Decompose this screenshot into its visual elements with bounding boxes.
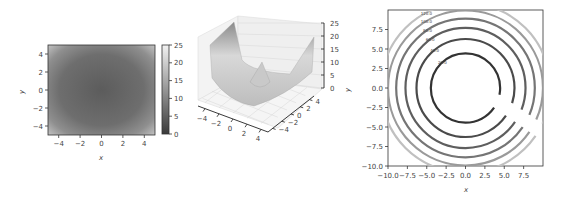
svg-text:0.0: 0.0 (372, 85, 383, 93)
colorbar-ticks: 0510152025 (169, 42, 183, 139)
svg-text:−2: −2 (33, 105, 43, 113)
svg-text:−4: −4 (197, 115, 208, 123)
svg-text:120.0: 120.0 (421, 11, 433, 16)
svg-text:0: 0 (297, 112, 301, 120)
svg-text:0: 0 (174, 131, 178, 139)
svg-text:15: 15 (330, 46, 339, 54)
svg-text:−4: −4 (54, 140, 65, 148)
svg-text:0.0: 0.0 (460, 172, 471, 180)
svg-text:0: 0 (228, 125, 232, 133)
svg-text:−4: −4 (279, 126, 290, 134)
svg-text:−7.5: −7.5 (399, 172, 416, 180)
svg-text:5: 5 (174, 113, 178, 121)
svg-text:−2: −2 (288, 119, 298, 127)
svg-text:40.0: 40.0 (430, 48, 439, 53)
svg-text:2: 2 (121, 140, 125, 148)
contour-panel: 20.040.060.080.0100.0120.0 −10.0−7.5−5.0… (340, 0, 564, 202)
svg-text:2.5: 2.5 (372, 65, 383, 73)
svg-text:10: 10 (330, 59, 339, 67)
heatmap-x-ticks: −4−2024 (54, 135, 148, 148)
svg-text:0: 0 (39, 87, 43, 95)
heatmap-x-label: x (98, 154, 104, 162)
svg-text:−4: −4 (33, 123, 44, 131)
heatmap-image (48, 45, 155, 135)
svg-text:−2.5: −2.5 (438, 172, 455, 180)
svg-text:−2: −2 (211, 120, 221, 128)
svg-text:80.0: 80.0 (423, 28, 432, 33)
svg-text:25: 25 (330, 20, 339, 28)
surface3d-panel: −4−2024−4−20240510152025 (190, 0, 350, 202)
contour-x-ticks: −10.0−7.5−5.0−2.50.02.55.07.5 (377, 166, 529, 180)
contour-y-ticks: −10.0−7.5−5.0−2.50.02.55.07.5 (362, 26, 388, 171)
svg-text:4: 4 (256, 135, 261, 143)
svg-text:20.0: 20.0 (438, 60, 447, 65)
svg-text:4: 4 (142, 140, 147, 148)
svg-text:−10.0: −10.0 (377, 172, 398, 180)
colorbar (162, 45, 169, 134)
heatmap-panel: −4−2024 −4−2024 x y 0510152025 (0, 0, 190, 202)
svg-text:2: 2 (306, 105, 310, 113)
svg-text:5.0: 5.0 (372, 46, 383, 54)
svg-text:20: 20 (330, 33, 339, 41)
svg-text:7.5: 7.5 (518, 172, 529, 180)
heatmap-y-label: y (18, 89, 26, 95)
contour-y-label: y (344, 87, 352, 93)
svg-text:7.5: 7.5 (372, 26, 383, 34)
svg-text:100.0: 100.0 (421, 19, 433, 24)
svg-text:−2: −2 (75, 140, 85, 148)
svg-text:2: 2 (39, 69, 43, 77)
svg-text:25: 25 (174, 42, 183, 50)
svg-text:−10.0: −10.0 (362, 163, 383, 171)
svg-text:5.0: 5.0 (499, 172, 510, 180)
svg-text:10: 10 (174, 95, 183, 103)
svg-text:−5.0: −5.0 (418, 172, 435, 180)
svg-text:−2.5: −2.5 (366, 104, 383, 112)
svg-text:2: 2 (242, 130, 246, 138)
svg-text:4: 4 (315, 98, 320, 106)
svg-text:−5.0: −5.0 (366, 124, 383, 132)
svg-text:0: 0 (99, 140, 103, 148)
svg-text:−7.5: −7.5 (366, 143, 383, 151)
svg-text:5: 5 (330, 72, 334, 80)
svg-text:15: 15 (174, 77, 183, 85)
heatmap-y-ticks: −4−2024 (33, 51, 48, 131)
svg-text:2.5: 2.5 (479, 172, 490, 180)
svg-text:4: 4 (39, 51, 44, 59)
svg-text:20: 20 (174, 59, 183, 67)
contour-x-label: x (463, 186, 469, 194)
svg-text:60.0: 60.0 (426, 37, 435, 42)
svg-text:0: 0 (330, 85, 334, 93)
